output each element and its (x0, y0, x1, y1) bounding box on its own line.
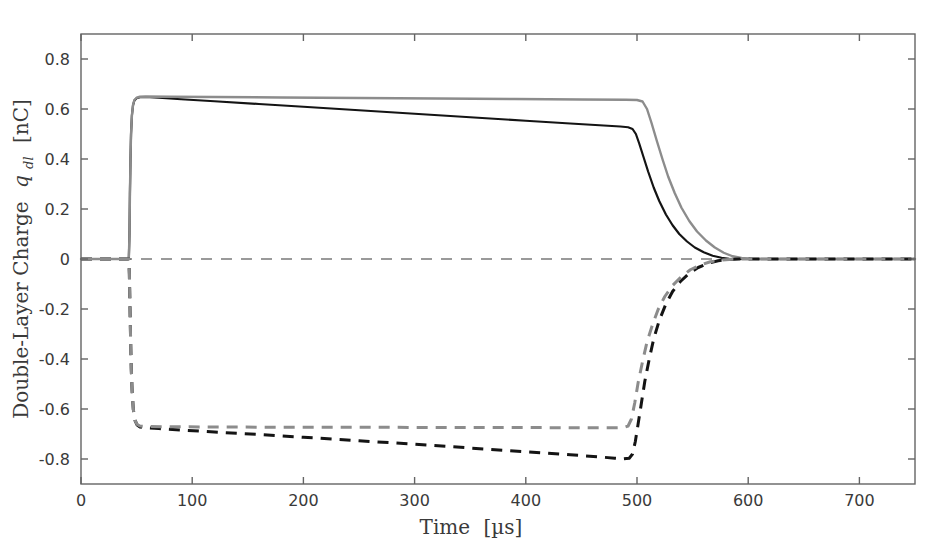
x-tick-label: 500 (622, 491, 653, 510)
x-tick-label: 700 (844, 491, 875, 510)
y-tick-label: 0.8 (45, 50, 70, 69)
x-tick-label: 400 (511, 491, 542, 510)
y-tick-label: -0.2 (39, 300, 70, 319)
y-axis-title-main: Double-Layer Charge (9, 201, 33, 418)
y-tick-label: -0.8 (39, 450, 70, 469)
cathode-charge-gray-dashed (81, 259, 915, 428)
y-axis-title: Double-Layer Charge q dl [nC] (9, 99, 38, 419)
x-axis-title-main: Time (420, 515, 471, 539)
y-axis-title-subscript: dl (21, 156, 36, 168)
y-tick-label: -0.4 (39, 350, 70, 369)
y-tick-labels: -0.8-0.6-0.4-0.200.20.40.60.8 (39, 50, 70, 469)
y-tick-label: 0.6 (45, 100, 70, 119)
chart-figure: 0100200300400500600700 -0.8-0.6-0.4-0.20… (0, 0, 941, 553)
double-layer-charge-line-chart: 0100200300400500600700 -0.8-0.6-0.4-0.20… (0, 0, 941, 553)
y-tick-label: 0.4 (45, 150, 70, 169)
y-tick-label: 0.2 (45, 200, 70, 219)
x-tick-labels: 0100200300400500600700 (76, 491, 875, 510)
series-layer (81, 97, 915, 459)
x-tick-label: 100 (177, 491, 208, 510)
x-tick-label: 300 (399, 491, 430, 510)
y-tick-label: -0.6 (39, 400, 70, 419)
anode-charge-black-solid (81, 97, 915, 259)
y-axis-title-symbol: q (9, 175, 33, 188)
x-tick-label: 600 (733, 491, 764, 510)
svg-text:Double-Layer Charge q: Double-Layer Charge q dl [nC] (9, 99, 38, 419)
x-axis-title-units: [µs] (484, 515, 523, 539)
x-tick-label: 0 (76, 491, 86, 510)
y-tick-label: 0 (60, 250, 70, 269)
x-axis-title: Time [µs] (420, 515, 523, 539)
y-axis-title-units: [nC] (9, 99, 33, 143)
anode-charge-gray-solid (81, 97, 915, 260)
x-tick-label: 200 (288, 491, 319, 510)
svg-text:Time [µs]: Time [µs] (420, 515, 523, 539)
